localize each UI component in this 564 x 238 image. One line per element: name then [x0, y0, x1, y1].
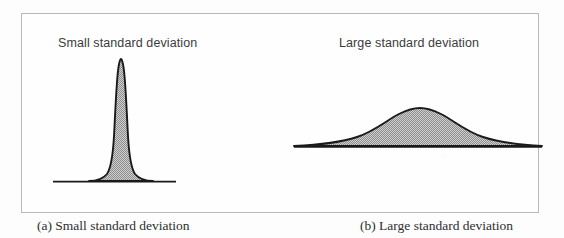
normal-curve-wide-plot [287, 14, 540, 214]
figure-caption-b: (b) Large standard deviation [360, 218, 513, 234]
normal-curve-narrow-area [89, 59, 153, 181]
figure-caption-a: (a) Small standard deviation [37, 218, 190, 234]
panel-small-standard-deviation: Small standard deviation [22, 14, 287, 214]
panel-large-standard-deviation: Large standard deviation [287, 14, 540, 214]
normal-curve-wide-area [294, 108, 542, 146]
figure-frame: Small standard deviation Large standard … [21, 13, 539, 213]
figure-root: Small standard deviation Large standard … [0, 0, 564, 238]
normal-curve-narrow-plot [22, 14, 287, 214]
